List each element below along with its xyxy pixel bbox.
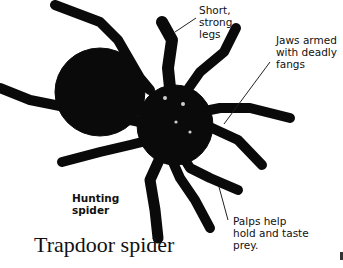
legs-leader-line — [175, 18, 196, 32]
figure-title: Trapdoor spider — [34, 232, 174, 258]
diagram-canvas: Short, strong legs Jaws armed with deadl… — [0, 0, 343, 268]
palps-leader-line — [219, 187, 228, 220]
label-hunting-spider: Hunting spider — [72, 192, 119, 216]
label-jaws: Jaws armed with deadly fangs — [276, 34, 337, 70]
label-palps: Palps help hold and taste prey. — [233, 215, 309, 251]
label-legs: Short, strong legs — [199, 4, 232, 40]
